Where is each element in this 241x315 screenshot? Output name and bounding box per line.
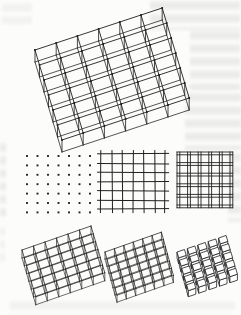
panel-small-space-grid-left [22,226,105,305]
panel-dot-grid-plan [26,155,91,213]
structural-diagrams-figure [0,0,241,315]
figure-layer [0,0,241,315]
panel-line-grid-plan [98,151,169,213]
panel-small-space-grid-middle [105,232,173,302]
panel-cube-grid [177,235,237,296]
scanned-page [0,0,241,315]
panel-double-line-grid-plan [177,152,233,208]
panel-large-space-grid [34,7,190,152]
